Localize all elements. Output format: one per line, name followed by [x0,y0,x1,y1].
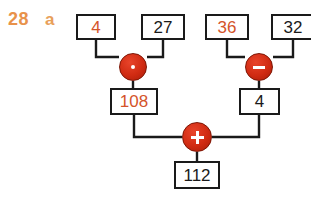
input-box-2[interactable]: 27 [141,14,185,40]
input-box-3-value: 36 [218,19,237,36]
multiply-dot-icon [131,65,135,69]
input-box-1-value: 4 [91,19,100,36]
input-box-3[interactable]: 36 [205,14,249,40]
wire-in4-to-subtract [273,40,293,57]
wire-mid-right-to-add [212,115,259,137]
input-box-4[interactable]: 32 [271,14,311,40]
wire-in2-to-multiply [147,40,163,57]
result-box-value: 112 [183,167,210,184]
input-box-4-value: 32 [284,19,303,36]
calculation-tree-diagram: 28 a 4 27 36 32 [0,0,311,199]
wire-in3-to-subtract [227,40,245,57]
result-box[interactable]: 112 [174,161,220,189]
input-box-2-value: 27 [154,19,173,36]
operator-add[interactable] [182,122,212,152]
minus-icon [253,66,265,69]
wire-mid-left-to-add [134,115,182,137]
input-box-1[interactable]: 4 [76,14,116,40]
intermediate-box-left[interactable]: 108 [110,88,158,115]
wire-in1-to-multiply [96,40,119,57]
intermediate-box-left-value: 108 [120,93,148,110]
intermediate-box-right-value: 4 [255,93,264,110]
operator-subtract[interactable] [245,53,273,81]
plus-icon [191,131,204,144]
operator-multiply[interactable] [119,53,147,81]
intermediate-box-right[interactable]: 4 [239,88,280,115]
